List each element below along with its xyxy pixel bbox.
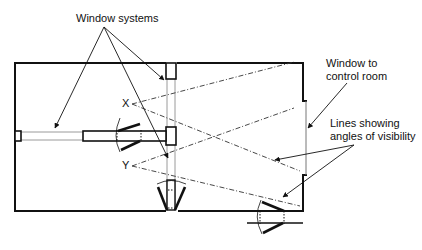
vertical-window-system: [166, 63, 176, 211]
callout-visibility: [275, 145, 354, 197]
floor-plan-diagram: [0, 0, 422, 250]
callout-control-room: [308, 83, 347, 128]
horizontal-window-system: [15, 131, 166, 141]
